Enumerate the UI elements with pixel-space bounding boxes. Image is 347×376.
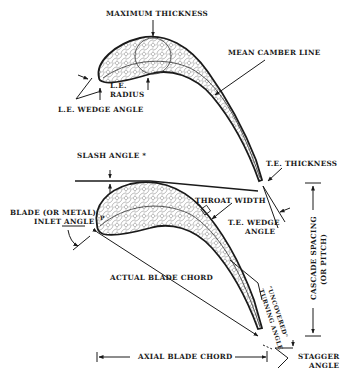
label-le-radius-line1: L.E. [110,82,127,90]
label-te-thickness: T.E. THICKNESS [266,160,337,168]
label-axial-blade-chord: AXIAL BLADE CHORD [138,353,233,361]
label-le-radius-line2: RADIUS [110,91,144,99]
label-te-wedge-angle-line1: T.E. WEDGE [228,219,280,227]
label-cascade-spacing-line1: CASCADE SPACING [310,216,318,300]
label-le-wedge-angle: L.E. WEDGE ANGLE [58,106,144,114]
point-p: P [100,214,105,221]
label-cascade-spacing-line2: (OR PITCH) [320,234,328,285]
label-blade-inlet-angle-line2: INLET ANGLE [34,218,94,226]
label-actual-blade-chord: ACTUAL BLADE CHORD [110,274,213,282]
label-blade-inlet-angle-line1: BLADE (OR METAL) [10,209,96,217]
label-mean-camber-line: MEAN CAMBER LINE [228,49,321,57]
label-maximum-thickness: MAXIMUM THICKNESS [106,10,208,18]
label-stagger-angle-line2: ANGLE [309,362,339,370]
label-te-wedge-angle-line2: ANGLE [245,228,275,236]
label-throat-width: THROAT WIDTH [195,197,266,205]
label-slash-angle: SLASH ANGLE * [77,152,146,160]
label-stagger-angle-line1: STAGGER [298,353,340,361]
